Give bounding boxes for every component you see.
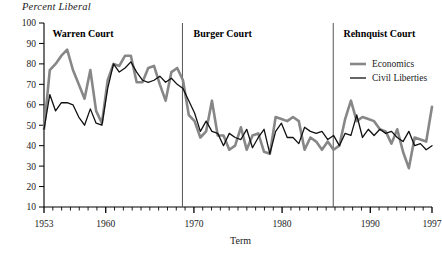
chart-legend: EconomicsCivil Liberties (350, 59, 427, 83)
era-divider-group (182, 23, 333, 207)
y-axis-tick-label: 10 (27, 202, 37, 212)
y-axis-tick-label: 80 (27, 59, 37, 69)
x-axis-tick-label: 1997 (423, 219, 442, 229)
y-axis-tick-group: 102030405060708090100 (22, 18, 44, 212)
y-axis-tick-label: 100 (22, 18, 37, 28)
x-axis-tick-label: 1953 (35, 219, 54, 229)
x-axis-tick-label: 1990 (361, 219, 380, 229)
x-axis-tick-label: 1970 (184, 219, 203, 229)
legend-label: Civil Liberties (372, 73, 427, 83)
era-label: Warren Court (52, 28, 114, 39)
y-axis-tick-label: 50 (27, 121, 37, 131)
era-label-group: Warren CourtBurger CourtRehnquist Court (52, 28, 416, 39)
x-axis-tick-label: 1980 (273, 219, 292, 229)
era-label: Burger Court (194, 28, 253, 39)
chart-plot-area: 102030405060708090100 195319601970198019… (0, 0, 442, 261)
y-axis-tick-label: 60 (27, 100, 37, 110)
y-axis-tick-label: 70 (27, 80, 37, 90)
y-axis-tick-label: 90 (27, 39, 37, 49)
era-label: Rehnquist Court (343, 28, 416, 39)
y-axis-tick-label: 40 (27, 141, 37, 151)
legend-label: Economics (372, 59, 415, 69)
x-axis-tick-label: 1960 (96, 219, 115, 229)
y-axis-tick-label: 30 (27, 162, 37, 172)
chart-figure: Percent Liberal 102030405060708090100 19… (0, 0, 442, 261)
x-axis-caption: Term (230, 235, 251, 246)
y-axis-tick-label: 20 (27, 182, 37, 192)
x-axis-tick-group: 195319601970198019901997 (35, 207, 442, 229)
